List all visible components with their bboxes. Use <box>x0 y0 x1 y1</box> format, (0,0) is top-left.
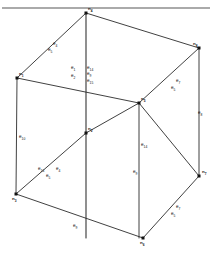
edge-top-right-up <box>86 13 199 48</box>
edge-label: e5 <box>171 86 175 92</box>
edge-vert-left <box>16 78 17 194</box>
edge-label: e2 <box>71 74 75 80</box>
edge-top-inner-l <box>17 78 139 103</box>
edge-label: e15 <box>87 79 93 85</box>
edge-label: e4 <box>53 42 57 48</box>
edge-mid-left <box>16 133 86 194</box>
edge-top-inner-r <box>139 48 199 103</box>
node-label: n4 <box>88 7 92 13</box>
vertex-marker <box>198 47 201 50</box>
edge-label: e7 <box>176 79 180 85</box>
vertex-marker <box>198 175 201 178</box>
node-label: n8 <box>193 42 197 48</box>
edge-label: e5 <box>171 212 175 218</box>
edge-label: e7 <box>176 205 180 211</box>
edge-label: e4 <box>56 167 60 173</box>
node-label: n1 <box>19 72 23 78</box>
edge-label: e14 <box>141 143 147 149</box>
edge-label: e9 <box>133 170 137 176</box>
edge-bottom-inner-l <box>86 103 139 133</box>
node-label: n3 <box>12 197 16 203</box>
edge-label: e16 <box>38 167 44 173</box>
cube-wireframe-svg <box>0 0 216 253</box>
cube-diagram: n4n1n8n5n2n3n7n6e4e7e8e10e4e7e9e9e14e9e1… <box>0 0 216 253</box>
footer-ghost-text <box>4 247 204 253</box>
edge-top-left-up <box>17 13 86 78</box>
node-label: n5 <box>141 97 145 103</box>
edge-label: e5 <box>48 48 52 54</box>
node-label: n2 <box>88 127 92 133</box>
edge-label: e5 <box>46 174 50 180</box>
edge-label: e1 <box>71 66 75 72</box>
edge-label: e8 <box>198 111 202 117</box>
edge-bottom-inner-r <box>139 103 199 176</box>
edge-bottom-left <box>16 194 143 238</box>
edge-label: e10 <box>19 135 25 141</box>
edge-bottom-right <box>143 176 199 238</box>
edge-label: e9 <box>73 224 77 230</box>
node-label: n7 <box>202 170 206 176</box>
